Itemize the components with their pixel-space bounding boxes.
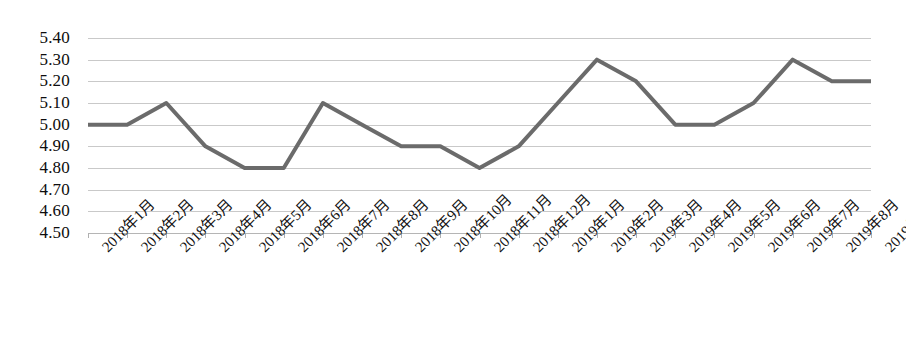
x-tick-label: 2019年2月 [605,241,620,256]
x-axis: 2018年1月2018年2月2018年3月2018年4月2018年5月2018年… [0,233,906,347]
line-series [88,38,871,233]
y-tick-label: 5.10 [39,93,70,113]
x-tick-label: 2018年2月 [135,241,150,256]
x-tick-label: 2018年7月 [331,241,346,256]
x-tick-label: 2019年8月 [840,241,855,256]
y-tick-label: 5.40 [39,28,70,48]
x-tick-label: 2019年6月 [762,241,777,256]
x-tick-label: 2019年5月 [722,241,737,256]
y-tick-label: 4.60 [39,201,70,221]
x-tick-label: 2018年10月 [448,241,463,256]
y-tick-label: 5.30 [39,50,70,70]
x-tick-label: 2019年3月 [644,241,659,256]
y-tick-label: 5.20 [39,71,70,91]
x-tick-label: 2019年7月 [801,241,816,256]
x-tick-label: 2018年8月 [370,241,385,256]
x-tick-label: 2018年11月 [488,241,503,256]
x-tick-label: 2019年1月 [566,241,581,256]
y-tick-label: 4.90 [39,136,70,156]
x-tick-label: 2018年3月 [174,241,189,256]
y-tick-label: 4.70 [39,180,70,200]
y-tick-label: 5.00 [39,115,70,135]
y-tick-label: 4.80 [39,158,70,178]
x-tick-label: 2018年5月 [253,241,268,256]
chart-figure: 5.405.305.205.105.004.904.804.704.604.50… [0,0,906,347]
x-tick-label: 2018年1月 [96,241,111,256]
x-tick-label: 2018年9月 [409,241,424,256]
x-tick-label: 2018年6月 [292,241,307,256]
x-tick-label: 2018年12月 [527,241,542,256]
x-tick-label: 2019年9月 [879,241,894,256]
x-tick-label: 2018年4月 [213,241,228,256]
x-tick-label: 2019年4月 [683,241,698,256]
plot-area [88,38,871,233]
series-polyline [88,60,871,168]
